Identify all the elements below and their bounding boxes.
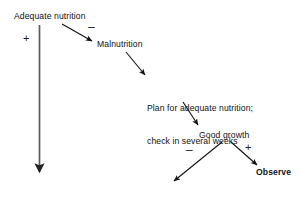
arrow-malnutrition-to-plan	[126, 52, 145, 75]
node-good-growth: Good growth	[199, 130, 249, 141]
sign-minus-to-malnutrition: –	[88, 22, 95, 33]
node-observe: Observe	[256, 167, 291, 178]
diagram-canvas: Adequate nutrition Malnutrition Plan for…	[0, 0, 308, 199]
node-plan-line-1: Plan for adequate nutrition;	[147, 103, 253, 114]
node-malnutrition: Malnutrition	[97, 39, 143, 50]
sign-plus-adequate-branch: +	[23, 33, 29, 44]
node-plan-for-adequate-nutrition: Plan for adequate nutrition; check in se…	[147, 81, 253, 169]
node-adequate-nutrition: Adequate nutrition	[14, 11, 86, 22]
sign-minus-from-good-growth: –	[186, 145, 193, 156]
sign-plus-to-observe: +	[245, 142, 251, 153]
